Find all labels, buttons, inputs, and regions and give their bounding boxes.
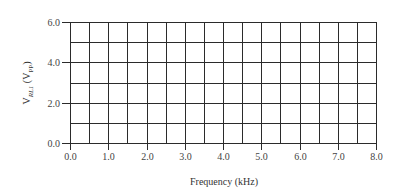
- y-tick-label: 0.0: [48, 138, 61, 149]
- y-label-main-sub: RL1: [27, 86, 35, 99]
- y-axis-label: VRL1 (VPP): [21, 61, 35, 104]
- x-tick-label: 3.0: [179, 151, 192, 162]
- x-tick-label: 0.0: [64, 151, 77, 162]
- x-axis-label: Frequency (kHz): [190, 176, 258, 188]
- y-axis-ticks: 0.02.04.06.0: [48, 17, 71, 149]
- x-axis-ticks: 0.01.02.03.04.05.06.07.08.0: [64, 143, 383, 162]
- x-tick-label: 4.0: [217, 151, 230, 162]
- x-tick-label: 2.0: [141, 151, 154, 162]
- x-tick-label: 6.0: [294, 151, 307, 162]
- y-label-unit-sub: PP: [27, 65, 35, 73]
- x-tick-label: 5.0: [255, 151, 268, 162]
- grid: [70, 22, 377, 144]
- x-tick-label: 1.0: [102, 151, 115, 162]
- chart: 0.01.02.03.04.05.06.07.08.0 0.02.04.06.0…: [0, 0, 400, 192]
- y-label-close-paren: ): [21, 61, 33, 64]
- x-tick-label: 7.0: [332, 151, 345, 162]
- y-tick-label: 6.0: [48, 17, 61, 28]
- y-tick-label: 4.0: [48, 57, 61, 68]
- y-tick-label: 2.0: [48, 98, 61, 109]
- x-tick-label: 8.0: [370, 151, 383, 162]
